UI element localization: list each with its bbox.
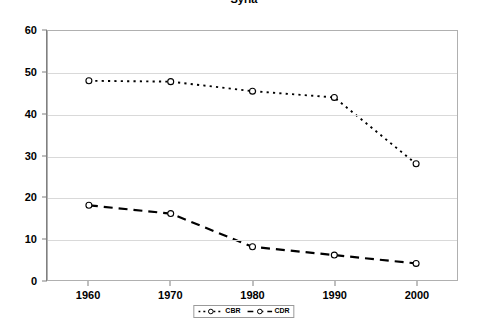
data-point-cbr-1980	[250, 88, 256, 94]
series-line-cdr	[89, 205, 416, 263]
legend-swatch-cdr	[248, 307, 273, 316]
data-point-cbr-1990	[331, 94, 337, 100]
data-point-cbr-1970	[168, 79, 174, 85]
legend-swatch-cbr	[198, 307, 223, 316]
y-tick-label: 40	[25, 108, 37, 120]
plot-svg	[48, 31, 457, 280]
plot-area	[47, 30, 458, 281]
y-tick-label: 60	[25, 24, 37, 36]
gridline	[48, 115, 457, 116]
chart-title: Syria	[0, 0, 488, 5]
y-tick-label: 0	[31, 275, 37, 287]
x-tick-label: 1970	[158, 289, 182, 301]
data-point-cbr-2000	[413, 161, 419, 167]
gridline	[48, 198, 457, 199]
y-tick-label: 50	[25, 66, 37, 78]
x-tick-label: 1990	[322, 289, 346, 301]
gridline	[48, 240, 457, 241]
chart-container: Syria 0102030405060 19601970198019902000…	[0, 0, 488, 322]
y-tick-label: 20	[25, 191, 37, 203]
legend-label: CDR	[275, 307, 290, 315]
data-point-cbr-1960	[86, 78, 92, 84]
x-tick-mark	[88, 281, 89, 286]
y-tick-label: 10	[25, 233, 37, 245]
y-tick-label: 30	[25, 150, 37, 162]
x-tick-mark	[334, 281, 335, 286]
x-tick-mark	[416, 281, 417, 286]
data-point-cdr-1960	[86, 202, 92, 208]
legend-label: CBR	[225, 307, 240, 315]
data-point-cdr-1990	[331, 252, 337, 258]
y-axis: 0102030405060	[0, 30, 47, 281]
data-point-cdr-1980	[250, 244, 256, 250]
gridline	[48, 157, 457, 158]
chart-legend: CBRCDR	[193, 305, 294, 318]
x-tick-label: 1980	[240, 289, 264, 301]
data-point-cdr-2000	[413, 260, 419, 266]
data-point-cdr-1970	[168, 211, 174, 217]
x-tick-mark	[170, 281, 171, 286]
x-tick-label: 1960	[76, 289, 100, 301]
x-tick-label: 2000	[405, 289, 429, 301]
legend-entry-cdr: CDR	[248, 307, 290, 316]
x-axis: 19601970198019902000	[47, 281, 458, 305]
gridline	[48, 73, 457, 74]
legend-entry-cbr: CBR	[198, 307, 240, 316]
x-tick-mark	[252, 281, 253, 286]
